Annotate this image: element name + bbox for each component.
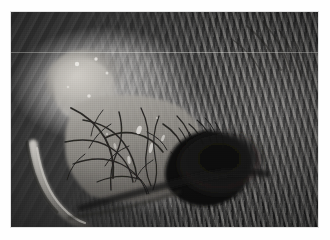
page-root [0, 0, 330, 240]
photo-vignette [11, 12, 318, 227]
periocular-surgical-photograph [11, 12, 318, 227]
